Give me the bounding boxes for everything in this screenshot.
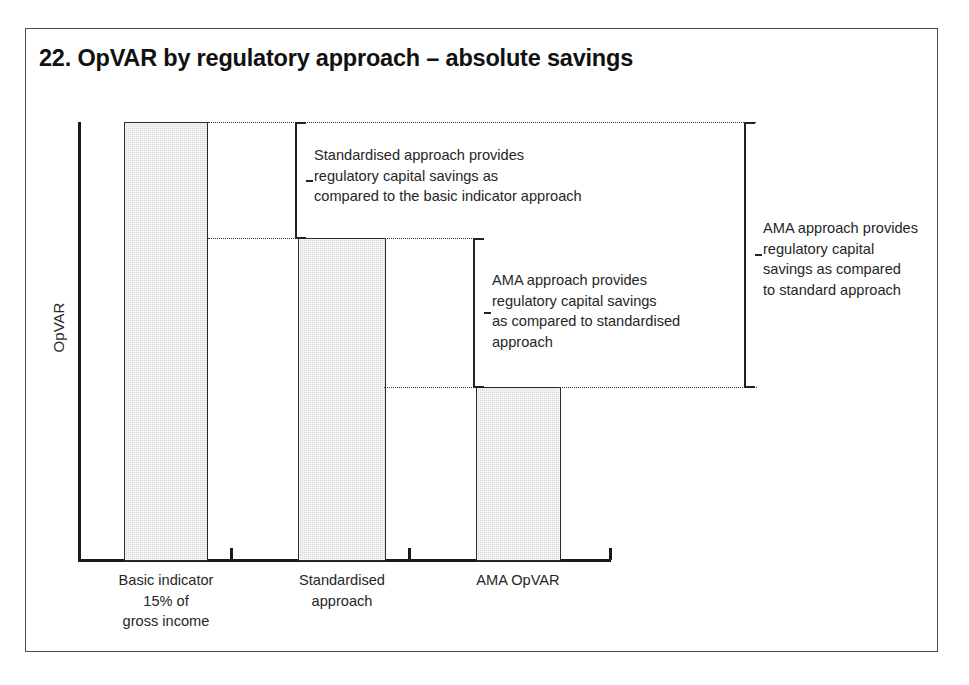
leader-line-basic-top <box>208 122 756 123</box>
annotation-standardised-saving: Standardised approach provides regulator… <box>314 145 614 207</box>
brace-pointer <box>306 180 313 182</box>
category-label-standardised-approach: Standardised approach <box>277 570 407 611</box>
bar-basic-indicator <box>124 122 208 561</box>
x-axis-tick <box>230 548 233 560</box>
brace-ama-vs-standard <box>744 122 755 388</box>
leader-line-standardised-top-right <box>384 238 478 239</box>
brace-standardised-saving <box>295 122 306 239</box>
figure-frame: 22. OpVAR by regulatory approach – absol… <box>25 28 938 652</box>
annotation-ama-vs-standardised: AMA approach provides regulatory capital… <box>492 270 722 353</box>
leader-line-standardised-top-left <box>208 238 300 239</box>
annotation-ama-vs-standard: AMA approach provides regulatory capital… <box>763 218 943 301</box>
leader-line-ama-top-right <box>559 387 757 388</box>
x-axis-tick <box>408 548 411 560</box>
plot-area: OpVAR Standardised approach provides reg… <box>26 29 939 653</box>
bar-ama-opvar <box>476 387 561 561</box>
x-axis-tick <box>609 548 612 560</box>
category-label-basic-indicator: Basic indicator 15% of gross income <box>101 570 231 632</box>
brace-pointer <box>755 254 762 256</box>
y-axis-label: OpVAR <box>50 288 67 368</box>
brace-ama-vs-standardised <box>473 238 484 388</box>
brace-pointer <box>484 312 491 314</box>
category-label-ama-opvar: AMA OpVAR <box>453 570 583 591</box>
leader-line-ama-top-left <box>384 387 478 388</box>
x-axis-tick <box>78 548 81 560</box>
bar-standardised-approach <box>298 238 386 561</box>
y-axis-line <box>78 122 81 562</box>
